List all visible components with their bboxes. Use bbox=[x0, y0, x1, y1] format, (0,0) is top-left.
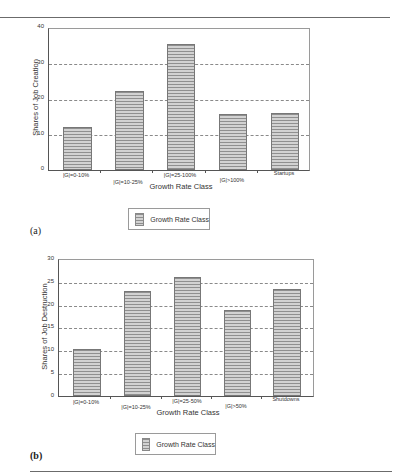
legend-label: Growth Rate Class bbox=[156, 441, 215, 448]
panel-label-b: (b) bbox=[30, 450, 42, 461]
bar-g-over-50 bbox=[224, 310, 251, 396]
bar-g-0-10 bbox=[63, 127, 92, 170]
y-tick-label: 20 bbox=[30, 94, 44, 100]
bar-g-0-10 bbox=[73, 349, 101, 396]
y-tick-label: 25 bbox=[40, 278, 54, 284]
bar-g-over-100 bbox=[219, 114, 247, 170]
x-label: |G|=0-10% bbox=[46, 172, 106, 178]
bottom-rule bbox=[30, 471, 392, 472]
y-tick-label: 15 bbox=[40, 323, 54, 329]
x-label: Startups bbox=[254, 170, 314, 176]
legend-swatch-icon bbox=[135, 213, 144, 226]
y-tick-label: 30 bbox=[40, 255, 54, 261]
legend-b: Growth Rate Class bbox=[135, 433, 216, 455]
y-tick-label: 5 bbox=[40, 369, 54, 375]
bar-g-10-25 bbox=[115, 91, 144, 170]
legend-a: Growth Rate Class bbox=[128, 208, 210, 230]
bar-startups bbox=[271, 113, 299, 170]
y-tick-label: 20 bbox=[40, 301, 54, 307]
panel-label-a: (a) bbox=[30, 225, 41, 236]
bar-g-25-100 bbox=[167, 44, 195, 170]
x-label: Shutdowns bbox=[256, 396, 316, 402]
y-tick-label: 0 bbox=[40, 392, 54, 398]
y-tick-label: 10 bbox=[30, 130, 44, 136]
x-axis-title-a: Growth Rate Class bbox=[121, 182, 241, 191]
legend-swatch-icon bbox=[142, 438, 150, 451]
x-axis-title-b: Growth Rate Class bbox=[128, 408, 248, 417]
top-rule bbox=[0, 17, 390, 18]
y-tick-label: 10 bbox=[40, 346, 54, 352]
legend-label: Growth Rate Class bbox=[150, 216, 209, 223]
y-tick-label: 30 bbox=[30, 59, 44, 65]
bar-shutdowns bbox=[273, 289, 301, 396]
bar-g-25-50 bbox=[174, 277, 201, 396]
x-label: |G|=25-100% bbox=[150, 172, 210, 178]
bar-g-10-25 bbox=[124, 291, 151, 396]
plot-area-b bbox=[58, 259, 314, 397]
y-tick-label: 0 bbox=[30, 165, 44, 171]
y-tick-label: 40 bbox=[30, 23, 44, 29]
plot-area-a bbox=[48, 28, 310, 171]
